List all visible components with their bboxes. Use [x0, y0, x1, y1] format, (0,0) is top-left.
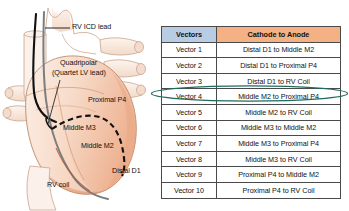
table-row: Vector 6 Middle M3 to Middle M2 [162, 120, 341, 136]
cell-cathode-to-anode: Middle M2 to Proximal P4 [217, 89, 341, 105]
vector-table: Vectors Cathode to Anode Vector 1 Distal… [161, 26, 341, 199]
cell-cathode-to-anode: Distal D1 to RV Coil [217, 73, 341, 89]
cell-cathode-to-anode: Middle M2 to RV Coil [217, 104, 341, 120]
label-middle-m3: Middle M3 [63, 124, 96, 132]
label-rv-icd-lead: RV ICD lead [72, 23, 111, 31]
header-cathode-to-anode: Cathode to Anode [217, 27, 341, 43]
table-row: Vector 3 Distal D1 to RV Coil [162, 73, 341, 89]
figure-root: RV ICD lead Quadripolar (Quartet LV lead… [0, 0, 349, 211]
heart-anatomy-svg [0, 0, 155, 211]
cell-cathode-to-anode: Middle M3 to RV Coil [217, 151, 341, 167]
label-proximal-p4: Proximal P4 [88, 96, 126, 104]
cell-vector: Vector 8 [162, 151, 217, 167]
cell-cathode-to-anode: Middle M3 to Middle M2 [217, 120, 341, 136]
table-row: Vector 2 Distal D1 to Proximal P4 [162, 58, 341, 74]
cell-cathode-to-anode: Proximal P4 to RV Coil [217, 182, 341, 198]
cell-vector: Vector 1 [162, 42, 217, 58]
heart-illustration-panel: RV ICD lead Quadripolar (Quartet LV lead… [0, 0, 155, 211]
table-row: Vector 5 Middle M2 to RV Coil [162, 104, 341, 120]
label-rv-coil: RV coil [47, 181, 69, 189]
label-quartet-lv-lead: (Quartet LV lead) [52, 69, 106, 77]
cell-cathode-to-anode: Middle M3 to Proximal P4 [217, 136, 341, 152]
cell-cathode-to-anode: Distal D1 to Middle M2 [217, 42, 341, 58]
cell-vector: Vector 10 [162, 182, 217, 198]
cell-vector: Vector 5 [162, 104, 217, 120]
table-row: Vector 9 Proximal P4 to Middle M2 [162, 167, 341, 183]
cell-vector: Vector 2 [162, 58, 217, 74]
cell-vector: Vector 4 [162, 89, 217, 105]
cell-vector: Vector 3 [162, 73, 217, 89]
table-row: Vector 1 Distal D1 to Middle M2 [162, 42, 341, 58]
label-distal-d1: Distal D1 [112, 167, 141, 175]
table-row: Vector 8 Middle M3 to RV Coil [162, 151, 341, 167]
label-quadripolar: Quadripolar [60, 59, 97, 67]
label-middle-m2: Middle M2 [81, 142, 114, 150]
table-row: Vector 10 Proximal P4 to RV Coil [162, 182, 341, 198]
table-row: Vector 7 Middle M3 to Proximal P4 [162, 136, 341, 152]
table-header-row: Vectors Cathode to Anode [162, 27, 341, 43]
cell-cathode-to-anode: Proximal P4 to Middle M2 [217, 167, 341, 183]
header-vectors: Vectors [162, 27, 217, 43]
cell-vector: Vector 7 [162, 136, 217, 152]
table-body: Vector 1 Distal D1 to Middle M2 Vector 2… [162, 42, 341, 198]
table-row-highlighted: Vector 4 Middle M2 to Proximal P4 [162, 89, 341, 105]
cell-vector: Vector 9 [162, 167, 217, 183]
cell-cathode-to-anode: Distal D1 to Proximal P4 [217, 58, 341, 74]
cell-vector: Vector 6 [162, 120, 217, 136]
